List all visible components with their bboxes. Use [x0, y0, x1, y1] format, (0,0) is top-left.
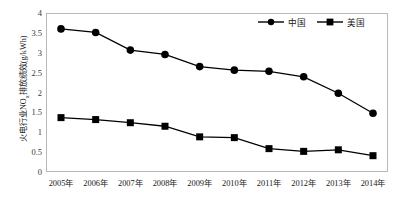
x-axis-tick-label: 2005年: [49, 176, 74, 188]
legend: 中国 美国: [258, 16, 365, 28]
data-point-circle: [369, 110, 377, 118]
x-axis-tick-label: 2014年: [361, 176, 386, 188]
x-axis-tick-label: 2011年: [257, 176, 281, 188]
square-marker-icon: [317, 17, 343, 27]
data-point-circle: [335, 89, 343, 97]
data-point-circle: [265, 68, 273, 76]
data-point-circle: [300, 73, 308, 81]
data-point-square: [300, 148, 307, 155]
data-point-square: [196, 133, 203, 140]
x-axis-tick-label: 2007年: [118, 176, 143, 188]
x-axis-tick-labels: 2005年2006年2007年2008年2009年2010年2011年2012年…: [46, 176, 388, 196]
x-axis-tick-label: 2010年: [222, 176, 247, 188]
y-axis-tick-label: 2: [16, 88, 42, 98]
line-chart: 火电行业NOx排放绩效(g/kWh) 00.511.522.533.54 中国 …: [0, 0, 394, 200]
y-axis-tick-label: 0: [16, 167, 42, 177]
series-china: [57, 25, 377, 117]
data-point-circle: [57, 25, 65, 33]
series-usa: [58, 114, 377, 159]
y-axis-tick-label: 2.5: [16, 68, 42, 78]
data-point-square: [58, 114, 65, 121]
legend-label-china: 中国: [288, 16, 306, 28]
x-axis-tick-label: 2013年: [326, 176, 351, 188]
y-axis-tick-label: 1: [16, 127, 42, 137]
series-canvas: [47, 14, 387, 171]
data-point-circle: [196, 63, 204, 71]
plot-area: [46, 13, 388, 172]
y-axis-tick-label: 3: [16, 48, 42, 58]
data-point-square: [231, 134, 238, 141]
data-point-square: [127, 119, 134, 126]
data-point-circle: [161, 51, 169, 59]
y-axis-tick-label: 4: [16, 8, 42, 18]
y-axis-tick-labels: 00.511.522.533.54: [16, 8, 42, 176]
series-line: [61, 29, 373, 113]
y-axis-tick-label: 1.5: [16, 107, 42, 117]
data-point-square: [266, 145, 273, 152]
x-axis-tick-label: 2006年: [83, 176, 108, 188]
x-axis-tick-label: 2009年: [187, 176, 212, 188]
data-point-square: [162, 123, 169, 130]
series-line: [61, 118, 373, 156]
data-point-square: [370, 152, 377, 159]
x-axis-tick-label: 2008年: [153, 176, 178, 188]
data-point-circle: [92, 29, 100, 37]
legend-label-usa: 美国: [347, 16, 365, 28]
data-point-square: [335, 146, 342, 153]
data-point-circle: [127, 46, 135, 54]
data-point-circle: [231, 66, 239, 74]
legend-item-china[interactable]: 中国: [258, 16, 306, 28]
circle-marker-icon: [258, 17, 284, 27]
x-axis-tick-label: 2012年: [291, 176, 316, 188]
y-axis-tick-label: 3.5: [16, 28, 42, 38]
legend-item-usa[interactable]: 美国: [317, 16, 365, 28]
data-point-square: [92, 116, 99, 123]
y-axis-tick-label: 0.5: [16, 147, 42, 157]
